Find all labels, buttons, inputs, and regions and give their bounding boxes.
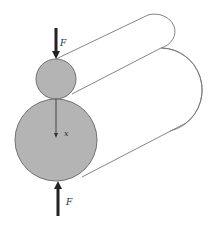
bottom-force-arrowhead xyxy=(54,181,62,189)
bottom-force-label: F xyxy=(65,197,73,207)
top-force-label: F xyxy=(59,38,67,48)
small-cylinder-far-arc xyxy=(148,14,175,48)
contact-diagram: x F F xyxy=(0,0,212,232)
x-axis-label: x xyxy=(64,129,69,138)
large-cylinder-body xyxy=(80,47,201,182)
small-cylinder-top-edge xyxy=(56,15,148,59)
top-force-shaft xyxy=(55,28,58,53)
small-cylinder-face xyxy=(36,59,76,99)
bottom-force-shaft xyxy=(57,188,60,216)
